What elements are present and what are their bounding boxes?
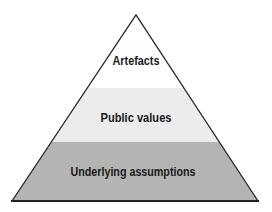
label-artefacts: Artefacts <box>113 54 160 68</box>
label-underlying-assumptions: Underlying assumptions <box>71 165 196 179</box>
level-artefacts-band <box>0 0 272 88</box>
pyramid-diagram: Artefacts Public values Underlying assum… <box>0 0 272 212</box>
label-public-values: Public values <box>101 111 172 125</box>
